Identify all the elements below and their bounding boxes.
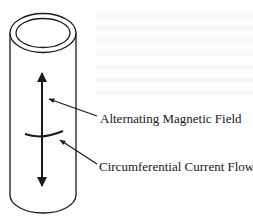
tube-inner-rim [16, 19, 70, 48]
current-flow-label: Circumferential Current Flow [99, 160, 253, 173]
magnetic-field-label: Alternating Magnetic Field [100, 112, 242, 125]
current-flow-leader-arrow [60, 140, 97, 164]
current-flow-arc [25, 131, 63, 136]
magnetic-field-leader-arrow [49, 99, 97, 116]
diagram-canvas: Alternating Magnetic Field Circumferenti… [0, 0, 253, 221]
